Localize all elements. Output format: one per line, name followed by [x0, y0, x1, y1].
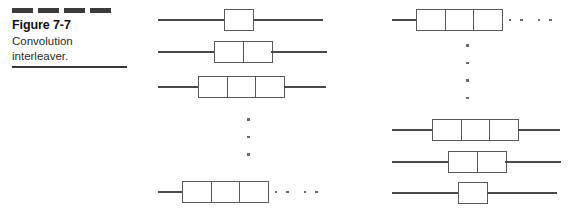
branch-horizontal-ellipsis [509, 19, 561, 22]
delay-cell-group [416, 9, 502, 31]
ellipsis-dot [247, 118, 250, 121]
deinterleaver-branch-row [392, 8, 561, 32]
deinterleaver-branch-row [392, 150, 561, 174]
ellipsis-dot [466, 62, 469, 65]
delay-cell [255, 76, 285, 98]
branch-input-line [392, 129, 432, 131]
delay-cell [432, 119, 462, 141]
delay-cell [239, 181, 269, 203]
delay-cell [243, 41, 273, 63]
ellipsis-dot [286, 191, 289, 194]
delay-cell [448, 151, 478, 173]
delay-cell-group [448, 151, 505, 173]
interleaver-branch-row [158, 40, 327, 64]
deinterleaver-vertical-ellipsis [466, 44, 469, 114]
branch-output-line [505, 161, 561, 163]
ellipsis-dot [466, 79, 469, 82]
deinterleaver-branch-row [392, 118, 560, 142]
branch-output-line [284, 86, 326, 88]
delay-cell-group [458, 182, 487, 204]
branch-output-line [253, 19, 323, 21]
branch-input-line [392, 19, 416, 21]
delay-cell-group [224, 9, 253, 31]
delay-cell [227, 76, 257, 98]
delay-cell [214, 41, 244, 63]
branch-output-line [518, 129, 560, 131]
interleaver-branch-row [158, 75, 326, 99]
ellipsis-dot [247, 153, 250, 156]
delay-cell [182, 181, 212, 203]
ellipsis-dot [509, 19, 512, 22]
delay-cell [461, 119, 491, 141]
convolution-interleaver-diagram [0, 0, 572, 212]
delay-cell [445, 9, 475, 31]
delay-cell [489, 119, 519, 141]
delay-cell [477, 151, 507, 173]
ellipsis-dot [538, 19, 541, 22]
delay-cell-group [198, 76, 284, 98]
branch-input-line [392, 192, 458, 194]
ellipsis-dot [466, 97, 469, 100]
ellipsis-dot [549, 19, 552, 22]
branch-input-line [158, 86, 198, 88]
delay-cell [473, 9, 503, 31]
interleaver-branch-row [158, 8, 323, 32]
delay-cell-group [214, 41, 271, 63]
ellipsis-dot [466, 44, 469, 47]
delay-cell-group [182, 181, 268, 203]
ellipsis-dot [247, 136, 250, 139]
delay-cell [416, 9, 446, 31]
deinterleaver-branch-row [392, 181, 557, 205]
branch-input-line [158, 51, 214, 53]
delay-cell [211, 181, 241, 203]
delay-cell [458, 182, 488, 204]
branch-output-line [487, 192, 557, 194]
ellipsis-dot [520, 19, 523, 22]
delay-cell [224, 9, 254, 31]
branch-input-line [158, 19, 224, 21]
interleaver-vertical-ellipsis [247, 118, 250, 171]
delay-cell [198, 76, 228, 98]
ellipsis-dot [304, 191, 307, 194]
branch-horizontal-ellipsis [275, 191, 327, 194]
ellipsis-dot [315, 191, 318, 194]
branch-input-line [392, 161, 448, 163]
branch-input-line [158, 191, 182, 193]
delay-cell-group [432, 119, 518, 141]
ellipsis-dot [275, 191, 278, 194]
interleaver-branch-row [158, 180, 327, 204]
branch-output-line [271, 51, 327, 53]
